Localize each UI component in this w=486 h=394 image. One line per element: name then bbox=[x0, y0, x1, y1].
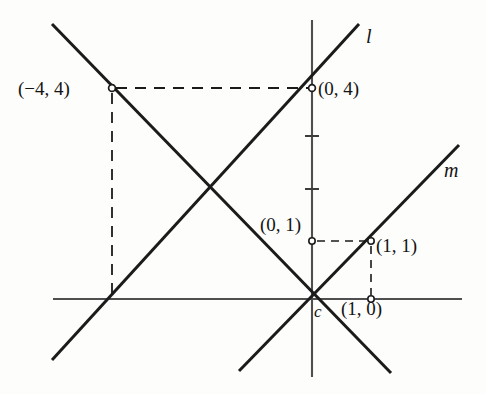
point-label-1-1: (1, 1) bbox=[376, 236, 417, 255]
line-m bbox=[239, 145, 459, 371]
line-label-m: m bbox=[444, 160, 458, 180]
point-marker-0-1 bbox=[309, 238, 315, 244]
negative-slope-line bbox=[52, 24, 391, 373]
point-marker-minus4-4 bbox=[109, 85, 116, 92]
origin-label-c: c bbox=[314, 303, 322, 320]
coordinate-geometry-figure: (−4, 4) (0, 4) (0, 1) (1, 1) (1, 0) l m … bbox=[0, 0, 486, 394]
point-label-1-0: (1, 0) bbox=[341, 299, 382, 318]
point-label-0-1: (0, 1) bbox=[260, 215, 301, 234]
figure-canvas bbox=[0, 0, 486, 394]
line-label-l: l bbox=[366, 26, 372, 46]
point-label-0-4: (0, 4) bbox=[318, 79, 359, 98]
point-marker-0-4 bbox=[309, 85, 316, 92]
point-label-minus4-4: (−4, 4) bbox=[18, 79, 70, 98]
point-marker-1-1 bbox=[368, 238, 374, 244]
